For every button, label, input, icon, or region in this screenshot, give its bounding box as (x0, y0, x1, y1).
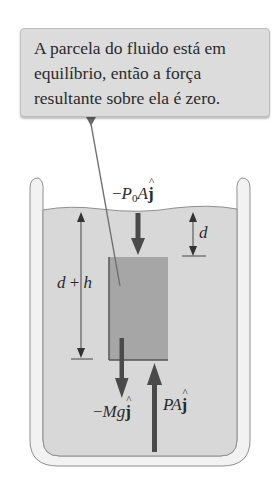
weight-arrow (120, 338, 125, 381)
callout-box: A parcela do fluido está em equilíbrio, … (20, 28, 270, 117)
label-depth-dh: d + h (57, 273, 92, 293)
callout-line-1: A parcela do fluido está em (34, 36, 257, 61)
bottom-force-arrow (152, 382, 157, 452)
label-depth-d: d (199, 223, 208, 243)
top-force-arrow (136, 213, 141, 241)
label-bottom-force: PA^j (163, 395, 187, 415)
label-top-force: −P0A^j (112, 184, 154, 204)
callout-line-2: equilíbrio, então a força (34, 61, 257, 86)
callout-line-3: resultante sobre ela é zero. (34, 86, 257, 111)
label-weight-force: −Mg^j (93, 402, 131, 422)
